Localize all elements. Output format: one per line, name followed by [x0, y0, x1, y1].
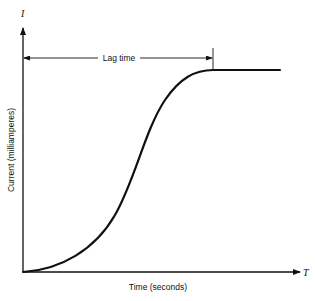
x-axis-symbol: T — [303, 267, 310, 278]
y-axis-symbol: I — [20, 8, 25, 19]
x-axis-title: Time (seconds) — [129, 282, 187, 292]
lag-time-label: Lag time — [103, 53, 136, 63]
y-axis-title: Current (milliamperes) — [6, 108, 16, 192]
chart: I T Lag time Time (seconds) Current (mil… — [0, 0, 315, 301]
current-curve — [23, 70, 280, 272]
